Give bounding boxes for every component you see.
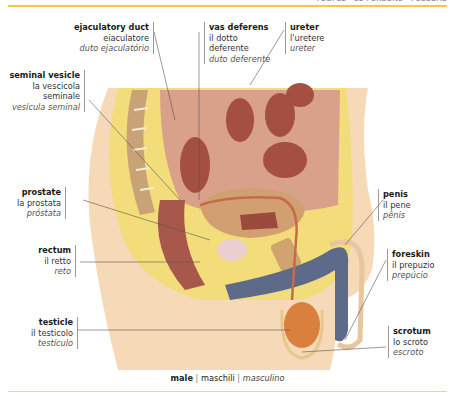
bowel-loop: [180, 137, 210, 193]
label-ureter: ureter l'uretere ureter: [285, 22, 324, 54]
bladder-inner: [240, 212, 278, 230]
bottom-divider: [8, 391, 447, 392]
label-testicle: testicle il testicolo testículo: [31, 317, 78, 349]
label-rectum: rectum il retto reto: [38, 245, 76, 277]
label-seminal-vesicle: seminal vesicle la vescicola seminale ve…: [9, 70, 85, 112]
label-vas-deferens: vas deferens il dotto deferente duto def…: [204, 22, 270, 64]
label-ejaculatory-duct: ejaculatory duct eiaculatore duto ejacul…: [74, 22, 154, 54]
label-foreskin: foreskin il prepuzio prepúcio: [387, 249, 435, 281]
figure-caption: male | maschili | masculino: [0, 373, 455, 383]
prostate: [217, 239, 247, 261]
label-scrotum: scrotum lo scroto escroto: [388, 326, 431, 358]
bowel-loop: [263, 142, 307, 178]
bowel-loop: [286, 83, 314, 107]
label-penis: penis il pene pênis: [378, 189, 411, 221]
label-prostate: prostate la prostata próstata: [17, 187, 66, 219]
testis: [284, 302, 320, 348]
bowel-loop: [226, 98, 254, 142]
